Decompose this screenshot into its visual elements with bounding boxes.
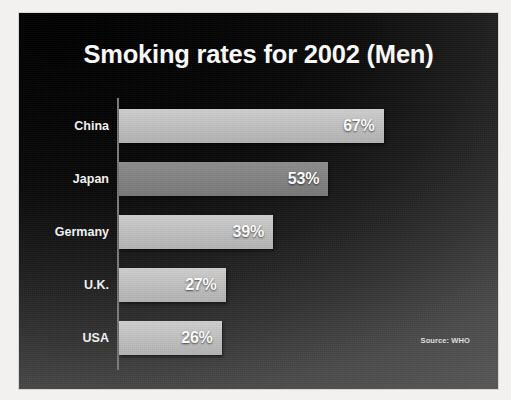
category-label-japan: Japan (73, 172, 109, 186)
category-label-china: China (74, 119, 109, 133)
bar-china: 67% (119, 109, 384, 143)
category-label-uk: U.K. (84, 278, 109, 292)
bar-value-germany: 39% (233, 223, 264, 241)
category-label-germany: Germany (55, 225, 109, 239)
scanned-slide-canvas: Smoking rates for 2002 (Men) China 67% J… (0, 0, 511, 400)
bar-germany: 39% (119, 215, 273, 249)
bar-usa: 26% (119, 321, 222, 355)
bar-value-japan: 53% (288, 170, 319, 188)
bar-value-uk: 27% (185, 276, 216, 294)
bar-row-japan: Japan 53% (19, 162, 498, 196)
bar-row-china: China 67% (19, 109, 498, 143)
bar-row-uk: U.K. 27% (19, 268, 498, 302)
bar-value-china: 67% (343, 117, 374, 135)
chart-title: Smoking rates for 2002 (Men) (19, 40, 498, 69)
bar-uk: 27% (119, 268, 226, 302)
bar-row-germany: Germany 39% (19, 215, 498, 249)
presentation-slide: Smoking rates for 2002 (Men) China 67% J… (19, 13, 498, 389)
source-attribution: Source: WHO (421, 336, 470, 345)
bar-chart-plot-area: China 67% Japan 53% Germany 39% U.K. (19, 91, 498, 371)
category-label-usa: USA (83, 331, 109, 345)
bar-value-usa: 26% (181, 329, 212, 347)
bar-japan: 53% (119, 162, 328, 196)
